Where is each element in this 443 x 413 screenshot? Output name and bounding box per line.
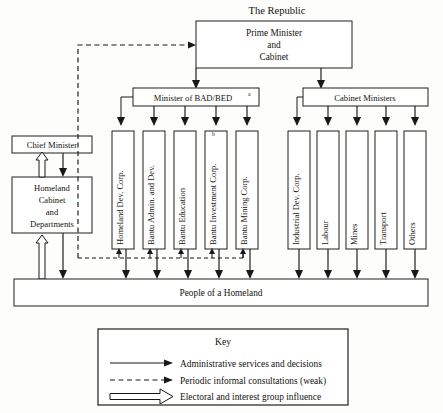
- prime-minister-line-1: Prime Minister: [246, 28, 303, 38]
- agency-industrial-dev-corp[interactable]: Industrial Dev. Corp.: [288, 131, 310, 249]
- hollow-arrow-cabinet-to-chiefminister: [36, 152, 48, 177]
- homeland-cabinet-line-4: Departments: [30, 219, 75, 229]
- key-label-administrative: Administrative services and decisions: [180, 359, 322, 369]
- agency-bantu-admin-and-dev[interactable]: Bantu Admin. and Dev.: [143, 106, 165, 249]
- minister-bad-bed-label: Minister of BAD/BED: [154, 93, 232, 103]
- key-title: Key: [215, 336, 231, 347]
- arrowhead-cabinet-to-agency3: [353, 117, 361, 126]
- arrowhead-badbed-to-agency3: [181, 117, 189, 126]
- agency-mines[interactable]: Mines: [346, 106, 368, 249]
- agency-bantu-investment-corp[interactable]: Bantu Investment Corp. b: [205, 106, 227, 249]
- connector-badbed-elbow: [121, 97, 133, 118]
- arrowhead-chiefminister-to-cabinet: [59, 168, 67, 177]
- agency-bantu-education[interactable]: Bantu Education: [174, 106, 196, 249]
- arrowhead-cabinet-to-agency4: [382, 117, 390, 126]
- arrowhead-badbed-to-agency5: [243, 117, 251, 126]
- agency-label-transport: Transport: [378, 212, 388, 245]
- arrowhead-cabinet-to-agency5: [411, 117, 419, 126]
- agency-label-industrial-dev-corp: Industrial Dev. Corp.: [291, 173, 301, 245]
- hollow-arrow-people-to-cabinet: [36, 235, 48, 279]
- connector-cabinet-elbow: [297, 97, 303, 118]
- arrowhead-cabinet-to-people: [59, 270, 67, 279]
- key-label-consultations: Periodic informal consultations (weak): [180, 376, 326, 387]
- homeland-cabinet-line-1: Homeland: [34, 183, 71, 193]
- key-label-electoral: Electoral and interest group influence: [180, 392, 321, 402]
- people-of-a-homeland-label: People of a Homeland: [180, 288, 263, 298]
- arrowhead-cabinet-elbow: [293, 117, 301, 126]
- agency-label-others: Others: [407, 222, 417, 245]
- arrowhead-badbed-to-agency2: [150, 117, 158, 126]
- arrowhead-dashed-to-pm: [188, 42, 196, 49]
- arrowhead-cabinet-to-agency2: [324, 117, 332, 126]
- agency-label-mines: Mines: [349, 224, 359, 245]
- agency-others[interactable]: Others: [404, 106, 426, 249]
- diagram-root: The Republic Prime Minister and Cabinet …: [0, 0, 443, 413]
- agency-label-bantu-admin-and-dev: Bantu Admin. and Dev.: [146, 165, 156, 245]
- prime-minister-line-2: and: [267, 40, 281, 50]
- homeland-cabinet-line-2: Cabinet: [39, 195, 66, 205]
- agency-label-bantu-mining-corp: Bantu Mining Corp.: [239, 176, 249, 245]
- cabinet-ministers-label: Cabinet Ministers: [334, 93, 396, 103]
- chief-minister-label: Chief Minister: [27, 140, 78, 150]
- arrowhead-badbed-elbow: [117, 117, 125, 126]
- agency-labour[interactable]: Labour: [317, 106, 339, 249]
- agency-bantu-mining-corp[interactable]: Bantu Mining Corp.: [236, 106, 258, 249]
- homeland-cabinet-line-3: and: [46, 207, 59, 217]
- org-chart-svg: The Republic Prime Minister and Cabinet …: [0, 0, 443, 413]
- agency-label-homeland-dev-corp: Homeland Dev. Corp.: [115, 170, 125, 245]
- connectors-left-agencies-to-people: [122, 249, 254, 279]
- prime-minister-line-3: Cabinet: [260, 52, 289, 62]
- agency-label-labour: Labour: [320, 220, 330, 245]
- agency-homeland-dev-corp[interactable]: Homeland Dev. Corp.: [112, 131, 134, 249]
- diagram-title: The Republic: [249, 5, 306, 16]
- connectors-right-agencies-to-people: [295, 249, 419, 279]
- agency-transport[interactable]: Transport: [375, 106, 397, 249]
- arrowhead-badbed-to-agency4: [212, 117, 220, 126]
- agency-superscript-bantu-investment-corp: b: [212, 131, 215, 137]
- agency-label-bantu-education: Bantu Education: [177, 187, 187, 245]
- agency-label-bantu-investment-corp: Bantu Investment Corp.: [208, 164, 218, 245]
